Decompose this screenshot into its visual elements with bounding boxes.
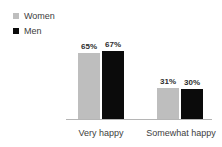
- bar-rect-women-very-happy: [78, 53, 100, 119]
- bar-women-very-happy: 65%: [78, 18, 100, 119]
- bar-women-somewhat-happy: 31%: [157, 18, 179, 119]
- x-axis-label-somewhat-happy: Somewhat happy: [141, 128, 221, 138]
- bar-rect-women-somewhat-happy: [157, 88, 179, 119]
- bar-rect-men-very-happy: [102, 51, 124, 119]
- plot-area: 65% 67% 31% 30% Very happy Somewhat happ…: [0, 0, 222, 147]
- bar-group-somewhat-happy: 31% 30%: [157, 18, 203, 119]
- bar-men-somewhat-happy: 30%: [181, 18, 203, 119]
- x-axis-line: [66, 119, 212, 120]
- x-axis-label-very-happy: Very happy: [66, 128, 136, 138]
- bar-value-men-somewhat-happy: 30%: [175, 78, 209, 87]
- bar-men-very-happy: 67%: [102, 18, 124, 119]
- bar-chart: Women Men 65% 67% 31%: [0, 0, 222, 147]
- bar-rect-men-somewhat-happy: [181, 89, 203, 119]
- bar-group-very-happy: 65% 67%: [78, 18, 124, 119]
- bar-value-men-very-happy: 67%: [96, 40, 130, 49]
